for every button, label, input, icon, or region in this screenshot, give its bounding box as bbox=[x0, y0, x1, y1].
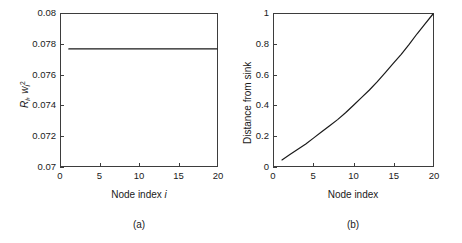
xtick-label-a-3: 15 bbox=[173, 171, 184, 181]
ytick-label-a-0: 0.07 bbox=[12, 162, 56, 172]
y-axis-title-b: Distance from sink bbox=[243, 62, 253, 144]
xtick-label-b-1: 5 bbox=[311, 171, 316, 181]
xtick-label-a-2: 10 bbox=[134, 171, 145, 181]
xtick-label-b-0: 0 bbox=[270, 171, 275, 181]
xtick-label-b-3: 15 bbox=[388, 171, 399, 181]
ytick-label-b-4: 0.8 bbox=[231, 39, 269, 49]
xtick-label-a-1: 5 bbox=[97, 171, 102, 181]
ytick-mark-a-0 bbox=[60, 167, 64, 168]
x-axis-title-a: Node index i bbox=[111, 190, 167, 200]
chart-panel-a: 0.07 0.072 0.074 0.076 0.078 0.08 0 5 10… bbox=[0, 0, 231, 243]
ytick-mark-b-4 bbox=[273, 44, 277, 45]
xtick-mark-a-1 bbox=[100, 163, 101, 167]
ytick-mark-b-0 bbox=[273, 167, 277, 168]
ytick-mark-a-5 bbox=[60, 13, 64, 14]
ytick-mark-b-5 bbox=[273, 13, 277, 14]
xtick-label-b-2: 10 bbox=[348, 171, 359, 181]
ytick-label-b-0: 0 bbox=[231, 162, 269, 172]
xtick-mark-a-4 bbox=[217, 163, 218, 167]
panel-caption-a: (a) bbox=[133, 220, 145, 230]
series-line-b bbox=[274, 14, 433, 166]
y-axis-title-a-sub2: i bbox=[24, 85, 31, 87]
ytick-label-a-3: 0.076 bbox=[12, 70, 56, 80]
y-axis-title-a: Ri, wi2 bbox=[20, 81, 32, 108]
xtick-mark-b-2 bbox=[354, 163, 355, 167]
y-axis-title-a-sub1: i bbox=[24, 99, 31, 101]
ytick-label-a-5: 0.08 bbox=[12, 8, 56, 18]
y-axis-title-a-sup: 2 bbox=[19, 81, 26, 85]
panel-caption-b: (b) bbox=[347, 220, 359, 230]
xtick-mark-b-4 bbox=[433, 163, 434, 167]
xtick-label-b-4: 20 bbox=[429, 171, 440, 181]
xtick-mark-b-1 bbox=[313, 163, 314, 167]
x-axis-title-a-prefix: Node index bbox=[111, 189, 164, 200]
ytick-mark-a-4 bbox=[60, 44, 64, 45]
ytick-mark-a-1 bbox=[60, 136, 64, 137]
xtick-mark-a-0 bbox=[60, 163, 61, 167]
plot-area-a bbox=[60, 13, 218, 167]
ytick-mark-a-3 bbox=[60, 75, 64, 76]
xtick-mark-b-3 bbox=[394, 163, 395, 167]
ytick-label-a-1: 0.072 bbox=[12, 131, 56, 141]
ytick-label-a-4: 0.078 bbox=[12, 39, 56, 49]
ytick-label-b-5: 1 bbox=[231, 8, 269, 18]
xtick-label-a-0: 0 bbox=[57, 171, 62, 181]
xtick-label-a-4: 20 bbox=[213, 171, 224, 181]
xtick-mark-a-3 bbox=[179, 163, 180, 167]
ytick-mark-b-3 bbox=[273, 75, 277, 76]
ytick-mark-b-1 bbox=[273, 136, 277, 137]
ytick-mark-b-2 bbox=[273, 105, 277, 106]
x-axis-title-b: Node index bbox=[328, 190, 379, 200]
y-axis-title-a-mid: , w bbox=[19, 86, 30, 99]
series-line-a bbox=[61, 14, 217, 166]
y-axis-title-a-r: R bbox=[19, 101, 30, 108]
ytick-mark-a-2 bbox=[60, 105, 64, 106]
xtick-mark-b-0 bbox=[273, 163, 274, 167]
x-axis-title-a-italic: i bbox=[165, 189, 167, 200]
figure-container: 0.07 0.072 0.074 0.076 0.078 0.08 0 5 10… bbox=[0, 0, 462, 243]
plot-area-b bbox=[273, 13, 434, 167]
chart-panel-b: 0 0.2 0.4 0.6 0.8 1 0 5 10 15 20 Node in… bbox=[231, 0, 462, 243]
xtick-mark-a-2 bbox=[139, 163, 140, 167]
